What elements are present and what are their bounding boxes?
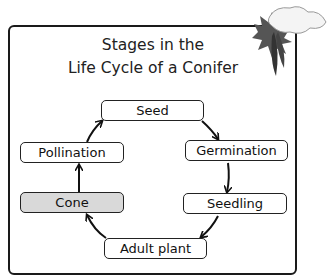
stage-pollination: Pollination <box>20 142 124 163</box>
arrow-pollination-to-seed <box>87 121 102 142</box>
stage-germination: Germination <box>185 140 288 161</box>
stage-seedling: Seedling <box>183 193 287 214</box>
arrow-germination-to-seedling <box>227 163 229 192</box>
stage-seed: Seed <box>101 100 204 121</box>
arrow-seed-to-germination <box>202 121 218 139</box>
arrow-adult-to-cone <box>87 215 106 238</box>
stage-cone: Cone <box>20 192 124 213</box>
stage-adult-plant: Adult plant <box>104 238 207 259</box>
arrow-seedling-to-adult <box>201 216 218 237</box>
